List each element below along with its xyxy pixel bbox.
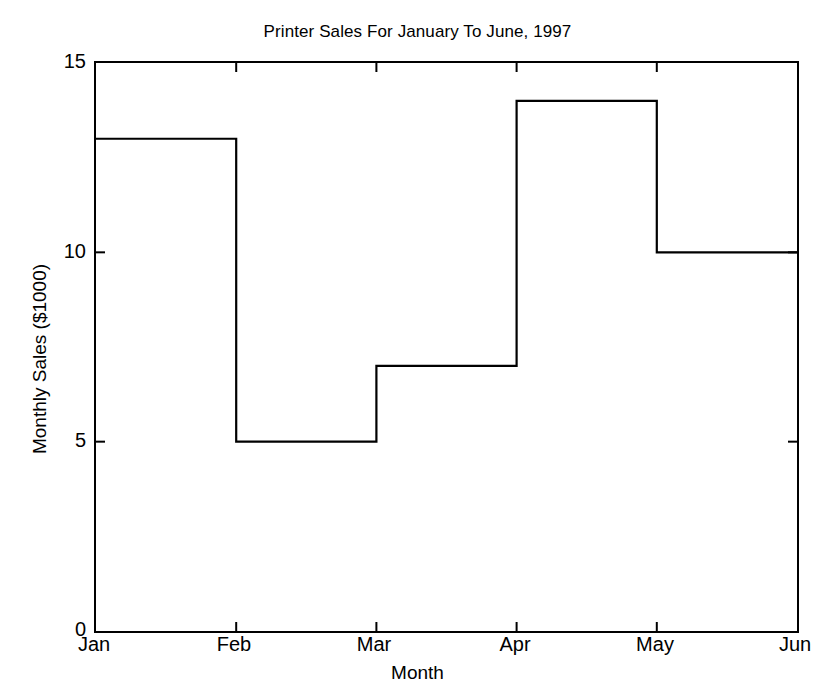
x-tick-label-jun: Jun: [765, 634, 825, 654]
stairstep-plot: [96, 63, 797, 631]
x-tick-label-mar: Mar: [344, 634, 404, 654]
x-tick-label-feb: Feb: [204, 634, 264, 654]
y-axis-label-container: Monthly Sales ($1000): [26, 239, 54, 479]
y-tick-label-5: 5: [75, 430, 86, 450]
x-axis-ticks: [236, 63, 657, 631]
y-axis-label: Monthly Sales ($1000): [26, 239, 54, 479]
y-axis-ticks: [96, 252, 797, 441]
x-tick-label-apr: Apr: [485, 634, 545, 654]
x-tick-label-may: May: [625, 634, 685, 654]
chart-title: Printer Sales For January To June, 1997: [0, 22, 835, 42]
chart-figure: Printer Sales For January To June, 1997 …: [0, 0, 835, 697]
x-tick-label-jan: Jan: [64, 634, 124, 654]
y-tick-label-15: 15: [64, 51, 86, 71]
plot-area: [94, 61, 799, 633]
y-tick-label-10: 10: [64, 241, 86, 261]
x-axis-label: Month: [0, 662, 835, 684]
stairstep-data-line: [96, 101, 797, 442]
